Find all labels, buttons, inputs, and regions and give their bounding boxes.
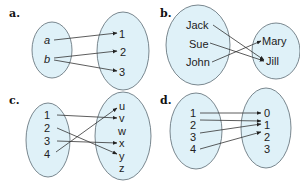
domain-item: 1 xyxy=(44,109,50,121)
domain-item: 3 xyxy=(44,135,50,147)
function-mapping-diagrams: a. a b 1 2 3 b. Jack Sue John Mary Jill … xyxy=(0,0,300,183)
domain-item: 4 xyxy=(190,143,196,155)
codomain-item: 1 xyxy=(119,28,125,40)
domain-item: John xyxy=(186,56,210,68)
panel-label: d. xyxy=(160,94,172,107)
codomain-set xyxy=(252,23,300,79)
codomain-item: u xyxy=(119,100,125,112)
panel-label: a. xyxy=(9,7,20,20)
domain-item: 2 xyxy=(44,122,50,134)
panel-b: b. Jack Sue John Mary Jill xyxy=(160,5,300,85)
domain-item: 3 xyxy=(190,131,196,143)
panel-label: c. xyxy=(9,94,20,107)
domain-item: Sue xyxy=(189,38,209,50)
codomain-item: 2 xyxy=(264,131,270,143)
codomain-item: 3 xyxy=(119,66,125,78)
codomain-item: Jill xyxy=(266,55,279,67)
panel-c: c. 1 2 3 4 u v w x y z xyxy=(9,92,151,180)
codomain-item: 3 xyxy=(264,143,270,155)
codomain-item: z xyxy=(119,162,125,174)
domain-set xyxy=(32,22,72,78)
codomain-item: v xyxy=(119,112,125,124)
codomain-item: x xyxy=(119,137,125,149)
panel-label: b. xyxy=(160,7,172,20)
codomain-item: w xyxy=(117,125,126,137)
codomain-item: Mary xyxy=(262,35,287,47)
domain-item: 1 xyxy=(190,107,196,119)
domain-item: a xyxy=(44,34,50,46)
panel-d: d. 1 2 3 4 0 1 2 3 xyxy=(160,88,291,169)
codomain-item: 1 xyxy=(264,119,270,131)
codomain-item: y xyxy=(119,150,125,162)
codomain-item: 2 xyxy=(120,46,126,58)
codomain-item: 0 xyxy=(264,107,270,119)
panel-a: a. a b 1 2 3 xyxy=(9,7,149,90)
domain-item: 2 xyxy=(190,119,196,131)
domain-item: b xyxy=(44,53,50,65)
domain-item: 4 xyxy=(44,148,50,160)
domain-item: Jack xyxy=(186,19,209,31)
